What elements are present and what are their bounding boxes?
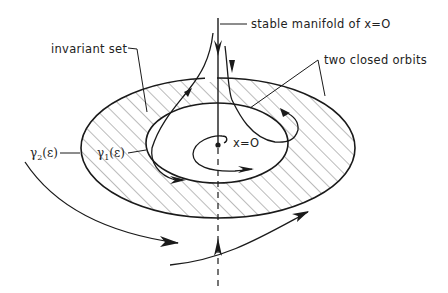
hatch-gap [205, 76, 217, 82]
label-invariant-set: invariant set [51, 42, 127, 56]
trajectory-outer-bottom [170, 212, 308, 265]
dashed-line-arrow-icon [214, 238, 222, 256]
phase-portrait-diagram: stable manifold of x=O invariant set two… [0, 0, 448, 293]
trajectory-arrow-icon [229, 60, 235, 73]
label-gamma2: γ2(ε) [30, 146, 58, 162]
label-stable-manifold: stable manifold of x=O [251, 17, 391, 31]
trajectory-arrow-icon [160, 236, 179, 247]
label-gamma1: γ1(ε) [97, 146, 125, 162]
label-two-closed-orbits: two closed orbits [324, 53, 427, 67]
origin-point [215, 142, 220, 147]
label-origin: x=O [233, 136, 259, 150]
trajectory-arrow-icon [292, 211, 309, 222]
